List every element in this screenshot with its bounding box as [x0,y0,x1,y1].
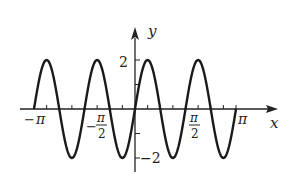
x-tick-neg-pi: π [35,111,46,127]
x-tick-neg-half-pi-den: 2 [98,127,106,141]
sine-graph: y x 2 −2 − π − π 2 π 2 π [0,0,294,185]
x-tick-neg-half-pi-num: π [96,111,106,125]
x-tick-half-pi-den: 2 [191,127,199,141]
y-tick-2: 2 [119,54,128,70]
x-axis-label: x [270,114,279,132]
y-tick-neg2: −2 [140,150,161,166]
y-axis-label: y [147,22,157,40]
x-tick-pi: π [237,111,248,127]
x-tick-neg-pi-sign: − [24,112,35,127]
x-tick-neg-half-pi-sign: − [86,119,97,134]
x-tick-half-pi-num: π [189,111,199,125]
